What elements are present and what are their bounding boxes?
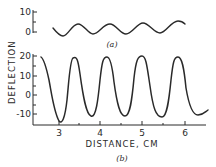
panel-b-curve [41,56,208,122]
panel-b-y-tick-minus10: -10 [16,109,31,119]
x-tick-5: 5 [139,128,145,138]
panel-b: 20 10 0 -10 3 4 5 6 DISTANCE, CM (b) [16,51,208,163]
panel-a: 10 0 (a) [20,7,185,49]
y-axis-label: DEFLECTION [7,40,17,104]
panel-a-label: (a) [106,40,117,49]
panel-b-y-tick-0: 0 [25,90,31,100]
panel-b-y-tick-10: 10 [20,71,32,81]
x-tick-4: 4 [97,128,103,138]
x-tick-3: 3 [56,128,62,138]
panel-a-y-tick-0: 0 [25,27,31,37]
panel-b-label: (b) [116,154,127,163]
x-tick-6: 6 [182,128,188,138]
panel-b-y-tick-20: 20 [20,51,32,61]
panel-a-y-tick-10: 10 [20,7,32,17]
x-axis-label: DISTANCE, CM [85,139,158,149]
chart-figure: DEFLECTION 10 0 (a) 20 10 0 -10 3 [0,0,216,167]
panel-a-curve [53,21,185,36]
